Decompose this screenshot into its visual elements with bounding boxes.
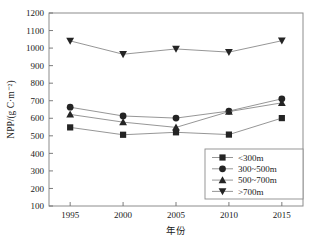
y-tick-label: 700	[31, 96, 45, 106]
marker-triangle-down	[225, 49, 233, 56]
y-axis-title: NPP/(g C·m⁻²)	[6, 80, 17, 138]
y-tick-label: 600	[31, 113, 45, 123]
y-tick-label: 400	[31, 149, 45, 159]
x-tick-label: 2015	[273, 210, 292, 220]
y-tick-label: 800	[31, 78, 45, 88]
marker-triangle-up	[66, 111, 74, 118]
y-tick-label: 1000	[26, 43, 45, 53]
legend-label: 500~700m	[238, 175, 277, 185]
y-tick-label: 1200	[26, 8, 45, 18]
y-tick-label: 500	[31, 131, 45, 141]
marker-square	[120, 132, 126, 138]
npp-elevation-line-chart: 1002003004005006007008009001000110012001…	[0, 0, 315, 243]
x-tick-label: 2005	[167, 210, 186, 220]
y-tick-label: 300	[31, 166, 45, 176]
x-axis-title: 年份	[166, 225, 186, 236]
series-2	[67, 95, 285, 121]
y-tick-label: 100	[31, 201, 45, 211]
marker-circle	[67, 104, 74, 111]
marker-square	[226, 131, 232, 137]
series-4	[66, 38, 285, 59]
legend-label: <300m	[238, 153, 264, 163]
y-axis-title-group: NPP/(g C·m⁻²)	[6, 80, 17, 138]
legend: <300m300~500m500~700m>700m	[205, 149, 303, 199]
x-tick-label: 1995	[61, 210, 80, 220]
legend-label: >700m	[238, 187, 264, 197]
y-tick-label: 200	[31, 184, 45, 194]
marker-square	[279, 115, 285, 121]
marker-circle	[219, 165, 226, 172]
marker-triangle-down	[119, 51, 127, 58]
marker-square	[219, 154, 225, 160]
marker-circle	[173, 115, 180, 122]
y-tick-label: 1100	[26, 26, 44, 36]
y-tick-label: 900	[31, 61, 45, 71]
marker-square	[67, 124, 73, 130]
x-tick-label: 2000	[114, 210, 133, 220]
chart-canvas: 1002003004005006007008009001000110012001…	[0, 0, 315, 243]
x-tick-label: 2010	[220, 210, 239, 220]
legend-label: 300~500m	[238, 164, 277, 174]
